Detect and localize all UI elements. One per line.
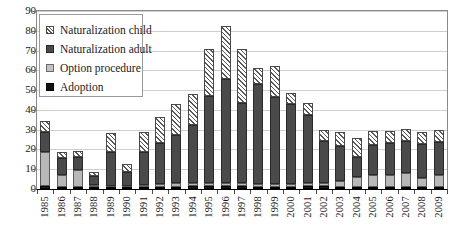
bar-segment-naturalization-child: [89, 172, 99, 176]
bar-segment-option-procedure: [171, 183, 181, 187]
legend-item-option-procedure: Option procedure: [46, 58, 142, 77]
x-axis-tick-label: 2005: [368, 196, 379, 218]
x-axis-tick-mark: [267, 190, 268, 194]
bar-segment-naturalization-child: [385, 131, 395, 143]
x-axis-tick-label: 1989: [106, 196, 117, 218]
stacked-bar-chart: 0102030405060708090 19851986198719881989…: [0, 0, 460, 244]
x-axis-tick-label: 1993: [171, 196, 182, 218]
x-axis-tick-mark: [217, 190, 218, 194]
bar-segment-naturalization-child: [57, 152, 67, 158]
bar-segment-option-procedure: [73, 170, 83, 187]
bar-segment-adoption: [286, 187, 296, 189]
bar-segment-naturalization-adult: [221, 79, 231, 183]
x-axis-tick-mark: [152, 190, 153, 194]
bar-segment-naturalization-child: [122, 164, 132, 172]
bar-1996: [221, 11, 231, 189]
x-axis-tick-label: 1990: [122, 196, 133, 218]
bar-segment-naturalization-adult: [89, 176, 99, 185]
bar-segment-naturalization-adult: [385, 143, 395, 175]
bar-segment-adoption: [155, 187, 165, 189]
bar-2002: [319, 11, 329, 189]
bar-1993: [171, 11, 181, 189]
bar-segment-naturalization-adult: [253, 84, 263, 184]
bar-segment-option-procedure: [335, 181, 345, 187]
legend-item-naturalization-child: Naturalization child: [46, 20, 142, 39]
bar-segment-naturalization-child: [335, 132, 345, 146]
bar-segment-naturalization-child: [319, 130, 329, 141]
bar-2001: [303, 11, 313, 189]
bar-segment-option-procedure: [286, 184, 296, 187]
x-axis-tick-label: 2002: [319, 196, 330, 218]
bar-segment-option-procedure: [368, 175, 378, 187]
bar-segment-option-procedure: [434, 175, 444, 187]
bar-segment-naturalization-child: [270, 66, 280, 97]
x-axis-tick-mark: [168, 190, 169, 194]
bar-segment-option-procedure: [204, 183, 214, 186]
x-axis-tick-mark: [283, 190, 284, 194]
bar-segment-option-procedure: [237, 183, 247, 186]
bar-segment-naturalization-adult: [40, 132, 50, 153]
legend-item-naturalization-adult: Naturalization adult: [46, 39, 142, 58]
bar-1995: [204, 11, 214, 189]
bar-segment-option-procedure: [385, 175, 395, 187]
light-gray-swatch-icon: [46, 64, 54, 72]
bar-2005: [368, 11, 378, 189]
x-axis-tick-label: 2009: [434, 196, 445, 218]
bar-segment-naturalization-child: [286, 93, 296, 104]
bar-segment-adoption: [221, 186, 231, 189]
x-axis-tick-mark: [201, 190, 202, 194]
x-axis-tick-label: 1998: [253, 196, 264, 218]
x-axis-tick-label: 2008: [417, 196, 428, 218]
bar-2007: [401, 11, 411, 189]
bar-segment-option-procedure: [221, 183, 231, 186]
bar-segment-naturalization-adult: [237, 103, 247, 183]
x-axis-tick-mark: [185, 190, 186, 194]
bar-segment-naturalization-child: [73, 151, 83, 157]
bar-segment-naturalization-child: [40, 121, 50, 132]
bar-segment-naturalization-child: [171, 104, 181, 136]
x-axis-tick-mark: [349, 190, 350, 194]
bar-segment-option-procedure: [319, 183, 329, 186]
bar-2003: [335, 11, 345, 189]
bar-1999: [270, 11, 280, 189]
bar-segment-naturalization-adult: [155, 143, 165, 184]
x-axis-tick-label: 1992: [155, 196, 166, 218]
x-axis-tick-label: 2004: [352, 196, 363, 218]
bar-segment-option-procedure: [188, 183, 198, 186]
black-swatch-icon: [46, 83, 54, 91]
x-axis-tick-mark: [431, 190, 432, 194]
bar-1998: [253, 11, 263, 189]
x-axis-tick-label: 1991: [139, 196, 150, 218]
legend-label: Adoption: [60, 81, 103, 93]
bar-segment-naturalization-child: [303, 103, 313, 115]
bar-segment-adoption: [319, 186, 329, 189]
x-axis-tick-mark: [234, 190, 235, 194]
x-axis-tick-label: 1996: [221, 196, 232, 218]
bar-segment-naturalization-adult: [335, 146, 345, 181]
bar-segment-adoption: [417, 187, 427, 189]
x-axis-tick-mark: [53, 190, 54, 194]
bar-segment-naturalization-adult: [270, 97, 280, 184]
x-axis-tick-label: 1985: [40, 196, 51, 218]
y-axis: 0102030405060708090: [0, 0, 36, 200]
x-axis-tick-mark: [316, 190, 317, 194]
x-axis-tick-mark: [37, 190, 38, 194]
bar-1992: [155, 11, 165, 189]
bar-segment-naturalization-adult: [57, 158, 67, 175]
bar-segment-naturalization-adult: [188, 125, 198, 183]
bar-2006: [385, 11, 395, 189]
bar-segment-naturalization-adult: [286, 104, 296, 184]
x-axis-tick-label: 2003: [335, 196, 346, 218]
bar-segment-naturalization-child: [352, 138, 362, 157]
bar-segment-adoption: [188, 186, 198, 189]
bar-segment-naturalization-adult: [122, 172, 132, 187]
bar-segment-adoption: [253, 187, 263, 189]
bar-segment-adoption: [434, 187, 444, 189]
bar-segment-naturalization-adult: [303, 115, 313, 183]
bar-segment-naturalization-adult: [319, 141, 329, 184]
bar-segment-naturalization-child: [417, 132, 427, 144]
x-axis-tick-label: 1995: [204, 196, 215, 218]
legend-label: Naturalization adult: [60, 43, 152, 55]
bar-segment-naturalization-adult: [171, 135, 181, 182]
bar-segment-adoption: [335, 187, 345, 189]
